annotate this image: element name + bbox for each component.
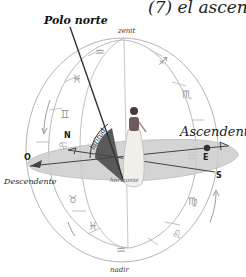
polo-norte-label: Polo norte bbox=[43, 14, 108, 27]
west-label: O bbox=[24, 153, 31, 162]
ascendant-point bbox=[204, 145, 210, 151]
east-label: E bbox=[203, 153, 208, 162]
title-fragment: (7) el ascen bbox=[148, 0, 246, 17]
observer-figure bbox=[123, 107, 146, 187]
descendente-label: Descendente bbox=[3, 177, 57, 186]
celestial-sphere-diagram: (7) el ascen ♒ ♓ ♊ ♋ ♐ ♏ ♍ ♌ ♉ ♓ ♒ ♎ bbox=[0, 0, 246, 277]
rotation-arrow-right bbox=[210, 192, 216, 222]
zodiac-sign-icon: ♏ bbox=[182, 88, 192, 101]
zodiac-sign-icon: ♌ bbox=[172, 228, 182, 241]
horizonte-label: horizonte bbox=[110, 176, 139, 183]
south-label: S bbox=[216, 171, 222, 180]
nadir-label: nadir bbox=[110, 266, 129, 274]
zodiac-sign-icon: ♉ bbox=[68, 193, 78, 206]
zenit-label: zenit bbox=[117, 27, 136, 35]
north-label: N bbox=[64, 131, 71, 140]
ascendente-label: Ascendente bbox=[179, 124, 246, 139]
zodiac-sign-icon: ♓ bbox=[72, 73, 82, 86]
rotation-arrow-bottom-left bbox=[68, 222, 75, 236]
zodiac-sign-icon: ♍ bbox=[188, 195, 198, 208]
zodiac-sign-icon: ♓ bbox=[88, 220, 98, 233]
rotation-arrow-left bbox=[44, 100, 50, 132]
zodiac-sign-icon: ♒ bbox=[95, 46, 105, 59]
zodiac-sign-icon: ♒ bbox=[116, 244, 126, 257]
zodiac-sign-icon: ♐ bbox=[158, 55, 168, 68]
zodiac-sign-icon: ♊ bbox=[60, 108, 70, 121]
